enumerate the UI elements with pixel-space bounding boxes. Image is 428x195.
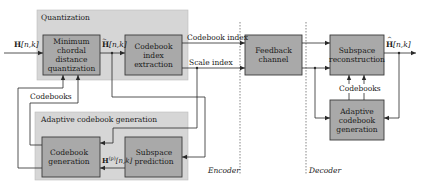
junction-output bbox=[398, 52, 400, 54]
quantization-title: Quantization bbox=[41, 13, 90, 22]
decoder-acg-label: Adaptive codebook generation bbox=[335, 100, 379, 140]
quantized-signal-label: ~H[n,k] bbox=[102, 40, 127, 49]
output-signal-label: ^H[n,k] bbox=[386, 40, 411, 49]
predicted-signal-label: H(p)[n,k] bbox=[102, 154, 132, 166]
scale-index-label: Scale index bbox=[189, 58, 233, 67]
codebook-index-label: Codebook index bbox=[187, 33, 248, 42]
junction-scale-dec bbox=[314, 67, 316, 69]
subspace-prediction-label: Subspace prediction bbox=[128, 137, 180, 177]
feedback-channel-label: Feedback channel bbox=[252, 35, 295, 75]
junction-quantized bbox=[111, 52, 113, 54]
codebook-index-extraction-label: Codebook index extraction bbox=[125, 35, 182, 75]
decoder-label: Decoder bbox=[309, 166, 341, 175]
min-chordal-label: Minimum chordal distance quantization bbox=[43, 35, 100, 75]
encoder-label: Encoder bbox=[208, 166, 240, 175]
decoder-codebooks-label: Codebooks bbox=[339, 84, 381, 93]
subspace-reconstruction-label: Subspace reconstruction bbox=[330, 35, 384, 75]
input-signal-label: H[n,k] bbox=[14, 40, 39, 49]
junction-scale-enc bbox=[196, 67, 198, 69]
encoder-codebooks-label: Codebooks bbox=[30, 92, 72, 101]
dec-output-to-acg-line bbox=[384, 53, 399, 118]
adaptive-codebook-generation-title: Adaptive codebook generation bbox=[41, 115, 157, 124]
codebook-generation-label: Codebook generation bbox=[44, 137, 94, 177]
dec-scale-to-acg-line bbox=[315, 68, 330, 118]
